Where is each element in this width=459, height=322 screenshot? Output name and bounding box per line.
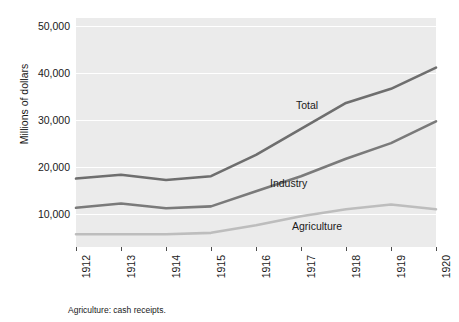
x-tick-label-1916: 1916 <box>261 255 272 278</box>
industry-line <box>76 121 436 208</box>
x-tick-label-1914: 1914 <box>171 255 182 278</box>
figure-footnote: Agriculture: cash receipts. <box>68 305 166 315</box>
series-label-total: Total <box>296 100 318 111</box>
x-tick-1913 <box>121 247 122 251</box>
total-line <box>76 68 436 180</box>
y-tick-label-40000: 40,000 <box>0 68 70 79</box>
plot-area: Total Industry Agriculture <box>76 18 436 247</box>
x-tick-label-1918: 1918 <box>351 255 362 278</box>
agriculture-line <box>76 205 436 235</box>
x-tick-1919 <box>391 247 392 251</box>
x-tick-1918 <box>346 247 347 251</box>
series-lines <box>76 18 436 247</box>
x-tick-1915 <box>211 247 212 251</box>
y-axis: 50,000 40,000 30,000 20,000 10,000 Milli… <box>0 0 70 322</box>
x-tick-1914 <box>166 247 167 251</box>
series-label-industry: Industry <box>270 178 307 189</box>
x-tick-1912 <box>76 247 77 251</box>
x-tick-label-1915: 1915 <box>216 255 227 278</box>
x-tick-label-1917: 1917 <box>306 255 317 278</box>
y-tick-label-30000: 30,000 <box>0 115 70 126</box>
line-chart-figure: 50,000 40,000 30,000 20,000 10,000 Milli… <box>0 0 459 322</box>
y-tick-label-20000: 20,000 <box>0 162 70 173</box>
x-tick-1917 <box>301 247 302 251</box>
x-tick-1916 <box>256 247 257 251</box>
x-tick-label-1920: 1920 <box>441 255 452 278</box>
x-axis: 191219131914191519161917191819191920 <box>76 247 436 307</box>
y-tick-label-50000: 50,000 <box>0 21 70 32</box>
y-axis-title: Millions of dollars <box>18 34 30 174</box>
x-tick-label-1919: 1919 <box>396 255 407 278</box>
x-tick-label-1912: 1912 <box>81 255 92 278</box>
x-tick-1920 <box>436 247 437 251</box>
y-tick-label-10000: 10,000 <box>0 209 70 220</box>
x-tick-label-1913: 1913 <box>126 255 137 278</box>
series-label-agriculture: Agriculture <box>292 221 342 232</box>
